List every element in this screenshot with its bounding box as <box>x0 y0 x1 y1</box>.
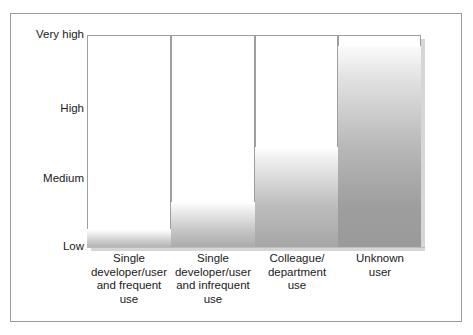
x-tick-3-line-3: use <box>251 279 343 293</box>
x-axis: Single developer/user and frequent use S… <box>87 252 421 310</box>
plot-area <box>87 35 421 247</box>
x-tick-1-line-1: Single <box>83 252 175 266</box>
bar-column-unknown-user[interactable] <box>338 35 421 247</box>
y-tick-high: High <box>18 102 84 115</box>
x-tick-1-line-4: use <box>83 293 175 307</box>
bar-column-single-developer-frequent[interactable] <box>87 35 171 247</box>
x-tick-3-line-1: Colleague/ <box>251 252 343 266</box>
x-tick-1-line-3: and frequent <box>83 279 175 293</box>
bar-fill-1 <box>87 229 171 247</box>
bar-column-colleague-department[interactable] <box>255 35 338 247</box>
x-tick-single-developer-frequent: Single developer/user and frequent use <box>83 252 175 306</box>
x-tick-1-line-2: developer/user <box>83 266 175 280</box>
x-tick-4-line-2: user <box>334 266 426 280</box>
bar-column-single-developer-infrequent[interactable] <box>171 35 255 247</box>
bar-fill-4 <box>338 46 421 247</box>
x-tick-2-line-4: use <box>167 293 259 307</box>
y-tick-very-high: Very high <box>18 28 84 41</box>
x-tick-2-line-3: and infrequent <box>167 279 259 293</box>
bar-outline-1 <box>87 35 171 247</box>
x-tick-3-line-2: department <box>251 266 343 280</box>
x-axis-baseline <box>87 247 425 248</box>
x-tick-2-line-2: developer/user <box>167 266 259 280</box>
x-tick-single-developer-infrequent: Single developer/user and infrequent use <box>167 252 259 306</box>
x-tick-colleague-department: Colleague/ department use <box>251 252 343 293</box>
x-tick-2-line-1: Single <box>167 252 259 266</box>
x-tick-unknown-user: Unknown user <box>334 252 426 279</box>
chart-figure: Very high High Medium Low Single devel <box>0 0 473 335</box>
x-tick-4-line-1: Unknown <box>334 252 426 266</box>
bar-fill-3 <box>255 147 338 247</box>
y-tick-low: Low <box>18 240 84 253</box>
y-axis: Very high High Medium Low <box>18 28 84 258</box>
bar-fill-2 <box>171 202 255 247</box>
y-tick-medium: Medium <box>18 172 84 185</box>
